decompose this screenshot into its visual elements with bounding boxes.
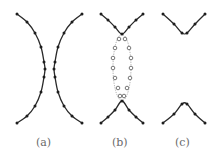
chain-curve [101, 101, 143, 123]
chain-node [100, 122, 103, 125]
chain-node [63, 32, 66, 35]
chain-node [142, 13, 145, 16]
chain-curve [54, 14, 82, 123]
chain-node [142, 122, 145, 125]
chain-node [16, 122, 19, 125]
chain-node [107, 116, 110, 119]
chain-node [43, 61, 46, 64]
open-node [111, 66, 115, 70]
panel-a [16, 13, 84, 125]
chain-node [26, 21, 29, 24]
chain-node [128, 109, 131, 112]
panel-c [162, 13, 207, 125]
chain-node [181, 32, 184, 35]
chain-curve [101, 14, 143, 34]
chain-node [34, 32, 37, 35]
chain-node [135, 19, 138, 22]
open-node [128, 76, 132, 80]
chain-node [114, 26, 117, 29]
chain-curve [163, 103, 205, 123]
chain-node [40, 91, 43, 94]
chain-node [107, 19, 110, 22]
panel-b-label: (b) [112, 136, 128, 149]
open-node [123, 37, 127, 41]
chain-node [162, 122, 165, 125]
chain-node [34, 105, 37, 108]
chain-node [57, 46, 60, 49]
panel-a-label: (a) [36, 136, 51, 149]
chain-node [26, 115, 29, 118]
chain-node [114, 109, 117, 112]
chain-node [63, 105, 66, 108]
panel-b [100, 13, 145, 125]
chain-node [204, 122, 207, 125]
open-node [127, 46, 131, 50]
chain-node [194, 23, 197, 26]
panel-c-label: (c) [175, 136, 190, 149]
chain-node [40, 46, 43, 49]
open-node [125, 86, 129, 90]
chain-node [186, 32, 189, 35]
chain-node [186, 103, 189, 106]
chain-node [81, 122, 84, 125]
chain-node [204, 13, 207, 16]
chain-node [53, 68, 56, 71]
chain-node [16, 13, 19, 16]
chain-curve [17, 14, 45, 123]
chain-node [173, 113, 176, 116]
chain-node [100, 13, 103, 16]
dashed-loop [113, 35, 131, 101]
chain-node [54, 61, 57, 64]
open-node [129, 56, 133, 60]
chain-node [121, 100, 124, 103]
chain-node [57, 91, 60, 94]
chain-curve [163, 14, 205, 34]
chain-node [162, 13, 165, 16]
chain-node [54, 76, 57, 79]
chain-node [121, 33, 124, 36]
chain-node [181, 103, 184, 106]
open-node [113, 46, 117, 50]
chain-node [173, 23, 176, 26]
open-node [111, 56, 115, 60]
open-node [117, 37, 121, 41]
open-node [129, 66, 133, 70]
chain-node [71, 21, 74, 24]
chain-node [81, 13, 84, 16]
chain-node [71, 115, 74, 118]
open-node [118, 94, 122, 98]
open-node [113, 76, 117, 80]
open-node [116, 86, 120, 90]
chain-node [128, 26, 131, 29]
chain-node [194, 113, 197, 116]
chain-node [44, 68, 47, 71]
chain-node [43, 76, 46, 79]
open-node [122, 94, 126, 98]
chain-node [135, 116, 138, 119]
